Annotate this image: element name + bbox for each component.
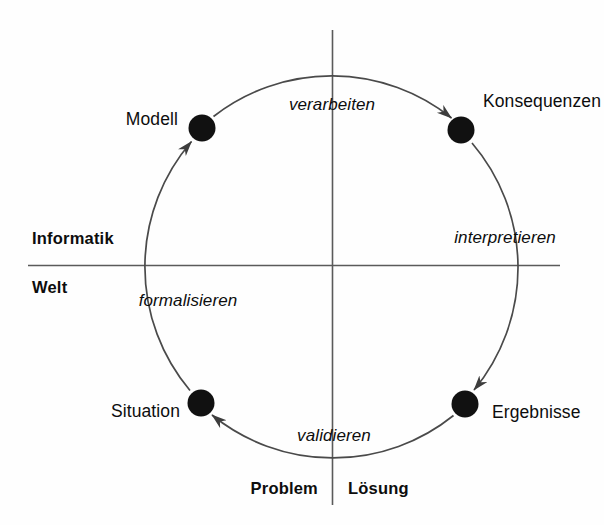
- edge-arc-interpretieren: [472, 143, 518, 390]
- diagram-canvas: Modell Konsequenzen Ergebnisse Situation…: [0, 0, 604, 525]
- cycle-diagram-graphic: [0, 0, 604, 525]
- node-label-konsequenzen: Konsequenzen: [483, 93, 601, 111]
- edge-label-verarbeiten: verarbeiten: [289, 96, 375, 113]
- node-dot-ergebnisse[interactable]: [452, 391, 479, 418]
- node-dot-konsequenzen[interactable]: [448, 117, 475, 144]
- node-label-situation: Situation: [111, 403, 180, 421]
- edge-label-interpretieren: interpretieren: [454, 229, 556, 246]
- node-dot-situation[interactable]: [188, 390, 215, 417]
- edge-label-formalisieren: formalisieren: [139, 292, 238, 309]
- axis-label-problem: Problem: [251, 480, 318, 497]
- node-label-ergebnisse: Ergebnisse: [492, 404, 581, 422]
- axis-label-informatik: Informatik: [32, 230, 114, 247]
- edge-label-validieren: validieren: [297, 427, 371, 444]
- axis-label-welt: Welt: [32, 279, 67, 296]
- node-dot-modell[interactable]: [189, 115, 216, 142]
- node-label-modell: Modell: [126, 111, 178, 129]
- axis-label-loesung: Lösung: [348, 480, 409, 497]
